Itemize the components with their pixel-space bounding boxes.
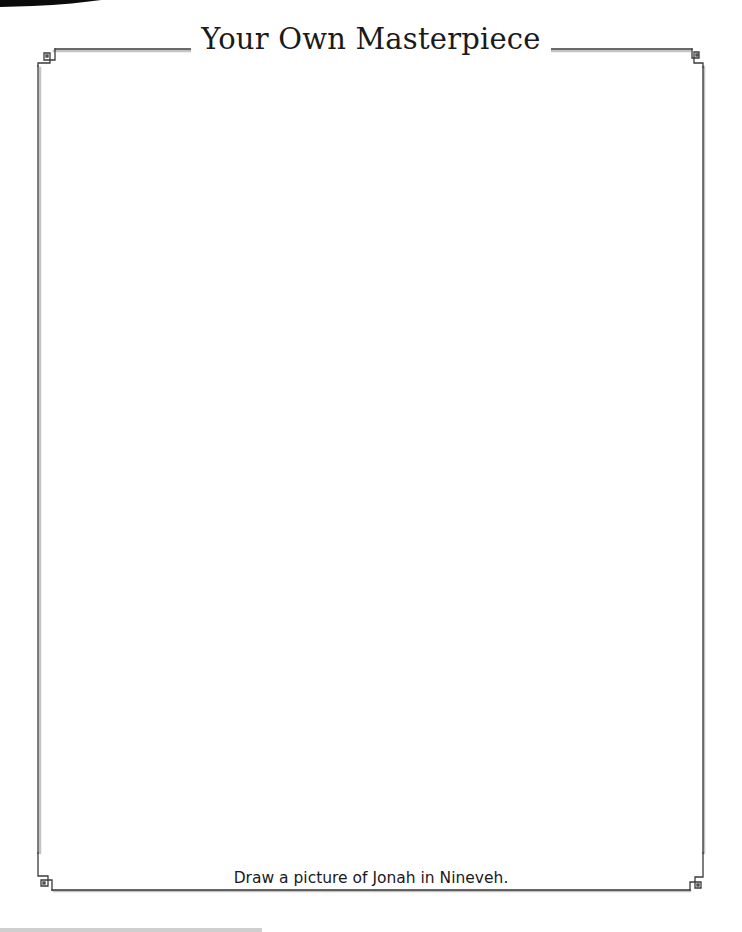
scan-bottom-edge	[0, 928, 262, 932]
drawing-area[interactable]	[42, 70, 702, 862]
page-title-text: Your Own Masterpiece	[191, 22, 550, 56]
page-title: Your Own Masterpiece	[0, 22, 742, 56]
instruction-caption: Draw a picture of Jonah in Nineveh.	[0, 869, 742, 887]
